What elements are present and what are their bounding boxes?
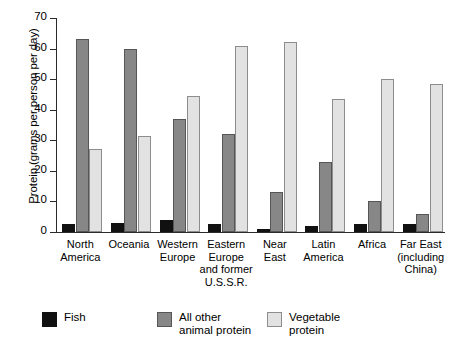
bar-group: [403, 18, 443, 232]
y-tick-label: 10: [34, 193, 47, 205]
legend-swatch-fish-icon: [42, 312, 57, 327]
bar-group: [160, 18, 200, 232]
y-tick-label: 60: [34, 41, 47, 53]
bar-fish: [354, 224, 367, 232]
y-tick-70: 70: [50, 18, 56, 19]
bar-veg: [332, 99, 345, 232]
y-tick-50: 50: [50, 79, 56, 80]
bar-fish: [111, 223, 124, 232]
bar-fish: [305, 226, 318, 232]
bar-fish: [208, 224, 221, 232]
bar-fish: [257, 229, 270, 232]
bar-veg: [430, 84, 443, 232]
y-tick-10: 10: [50, 201, 56, 202]
y-tick-20: 20: [50, 171, 56, 172]
bar-group: [62, 18, 102, 232]
bar-veg: [381, 79, 394, 232]
y-tick-30: 30: [50, 140, 56, 141]
legend-item: Fish: [42, 311, 86, 327]
x-axis-line: [56, 232, 445, 233]
y-tick-label: 50: [34, 71, 47, 83]
bar-group: [208, 18, 248, 232]
bar-veg: [89, 149, 102, 232]
y-tick-label: 0: [41, 224, 47, 236]
bar-animal: [124, 49, 137, 232]
legend-swatch-animal-icon: [157, 312, 172, 327]
protein-sources-bar-chart: Protein (grams per person per day) 70605…: [0, 0, 460, 351]
x-axis-label: Far East (including China): [381, 238, 460, 276]
bar-veg: [138, 136, 151, 232]
bar-group: [354, 18, 394, 232]
y-tick-label: 70: [34, 10, 47, 22]
legend-swatch-veg-icon: [267, 312, 282, 327]
legend-item: All other animal protein: [157, 311, 251, 336]
legend-item: Vegetable protein: [267, 311, 340, 336]
y-tick-0: 0: [50, 232, 56, 233]
bar-group: [257, 18, 297, 232]
bar-fish: [62, 224, 75, 232]
y-tick-label: 20: [34, 163, 47, 175]
legend-label: Fish: [64, 311, 86, 324]
bar-animal: [270, 192, 283, 232]
bar-animal: [173, 119, 186, 232]
y-tick-label: 30: [34, 132, 47, 144]
bar-animal: [368, 201, 381, 232]
y-tick-60: 60: [50, 49, 56, 50]
bar-fish: [403, 224, 416, 232]
y-tick-40: 40: [50, 110, 56, 111]
chart-legend: FishAll other animal proteinVegetable pr…: [42, 311, 372, 345]
bar-group: [111, 18, 151, 232]
y-tick-label: 40: [34, 102, 47, 114]
legend-label: Vegetable protein: [289, 311, 340, 336]
bar-animal: [319, 162, 332, 232]
y-axis-line: [56, 18, 57, 233]
bar-fish: [160, 220, 173, 232]
bar-veg: [284, 42, 297, 232]
bar-animal: [222, 134, 235, 232]
bar-animal: [76, 39, 89, 232]
legend-label: All other animal protein: [179, 311, 251, 336]
bar-veg: [187, 96, 200, 232]
bar-animal: [416, 214, 429, 232]
plot-area: 706050403020100: [56, 18, 445, 233]
bar-group: [305, 18, 345, 232]
bar-veg: [235, 46, 248, 232]
